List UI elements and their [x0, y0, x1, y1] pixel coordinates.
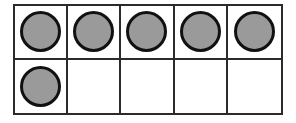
counter-2[interactable] [73, 11, 114, 52]
frame-cell-5[interactable] [228, 6, 281, 60]
frame-cell-10[interactable] [228, 60, 281, 114]
frame-cell-9[interactable] [175, 60, 228, 114]
frame-cell-7[interactable] [68, 60, 121, 114]
frame-cell-4[interactable] [175, 6, 228, 60]
frame-cell-6[interactable] [15, 60, 68, 114]
frame-cell-1[interactable] [15, 6, 68, 60]
ten-frame-grid [13, 4, 283, 115]
frame-cell-2[interactable] [68, 6, 121, 60]
frame-cell-3[interactable] [121, 6, 174, 60]
counter-1[interactable] [20, 11, 61, 52]
frame-cell-8[interactable] [121, 60, 174, 114]
counter-5[interactable] [234, 11, 275, 52]
counter-6[interactable] [20, 66, 61, 107]
counter-3[interactable] [126, 11, 167, 52]
counter-4[interactable] [180, 11, 221, 52]
ten-frame-figure [0, 0, 296, 123]
